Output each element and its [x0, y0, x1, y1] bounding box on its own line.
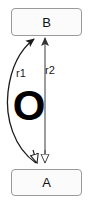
annotation-o-symbol: O [9, 84, 49, 128]
edge-label-r1: r1 [16, 68, 26, 79]
diagram-canvas: B A r1 r2 O [0, 0, 91, 203]
node-b-label: B [42, 16, 51, 29]
edge-label-r2: r2 [45, 65, 55, 76]
node-a[interactable]: A [11, 169, 82, 196]
node-b[interactable]: B [11, 8, 82, 36]
node-a-label: A [42, 176, 51, 189]
